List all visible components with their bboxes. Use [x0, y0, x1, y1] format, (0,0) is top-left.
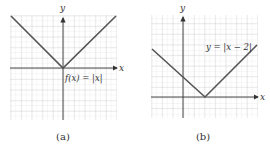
panel-a: x y f(x) = |x|: [10, 3, 124, 120]
figure: x y f(x) = |x| x y y = |x − 2|: [0, 0, 270, 154]
panel-b: x y y = |x − 2|: [151, 3, 265, 118]
equation-a: f(x) = |x|: [64, 73, 103, 84]
caption-b: (b): [183, 131, 223, 142]
caption-a: (a): [43, 131, 83, 142]
x-axis-label-a: x: [119, 63, 124, 73]
y-axis-label-b: y: [179, 3, 186, 13]
x-axis-label-b: x: [260, 92, 265, 102]
y-axis-label-a: y: [59, 3, 66, 13]
equation-b: y = |x − 2|: [205, 42, 252, 53]
